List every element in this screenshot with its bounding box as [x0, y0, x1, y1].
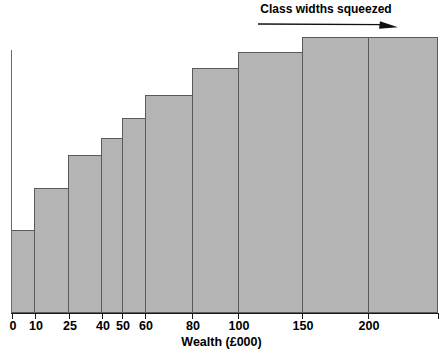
arrow-right-icon [258, 21, 398, 30]
x-tick-label-100: 100 [229, 320, 250, 333]
x-axis-title: Wealth (£000) [0, 335, 447, 349]
y-axis-line [11, 50, 12, 314]
x-tick-label-200: 200 [359, 320, 380, 333]
x-tick-label-0: 0 [10, 320, 17, 333]
x-tick-label-10: 10 [29, 320, 43, 333]
bar-150-200 [302, 37, 369, 313]
histogram-figure: Class widths squeezed 010254050608010015… [0, 0, 447, 352]
bar-200-plus [368, 37, 438, 313]
bar-25-40 [68, 155, 102, 313]
x-tick-label-25: 25 [63, 320, 77, 333]
x-tick-label-60: 60 [139, 320, 153, 333]
bar-0-10 [11, 230, 35, 313]
bar-80-100 [192, 68, 239, 313]
x-axis-title-text: Wealth (£000) [181, 335, 261, 349]
bar-50-60 [122, 118, 146, 313]
x-tick-label-50: 50 [116, 320, 130, 333]
x-tick-end [438, 313, 439, 319]
annotation-label: Class widths squeezed [258, 2, 394, 16]
x-axis-line [11, 313, 439, 314]
x-tick-label-40: 40 [96, 320, 110, 333]
bar-10-25 [34, 188, 69, 313]
x-tick-label-80: 80 [186, 320, 200, 333]
x-tick-label-150: 150 [293, 320, 314, 333]
bar-40-50 [101, 138, 123, 313]
bar-60-80 [145, 95, 193, 313]
annotation-class-widths-squeezed: Class widths squeezed [258, 2, 398, 30]
bar-100-150 [238, 52, 303, 313]
